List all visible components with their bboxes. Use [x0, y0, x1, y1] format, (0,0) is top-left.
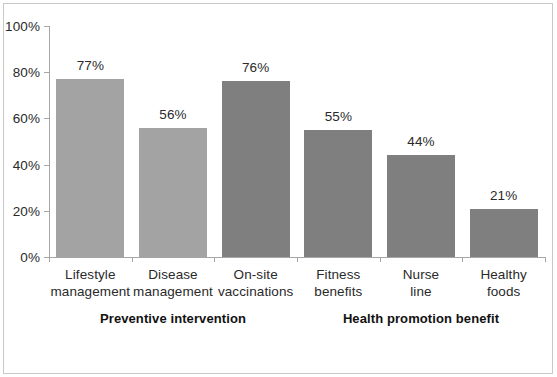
y-axis-line — [49, 26, 50, 258]
category-label-line: Fitness — [297, 266, 380, 283]
bar-rect[interactable] — [387, 155, 455, 257]
x-tick-mark — [49, 257, 50, 262]
x-tick-mark — [545, 257, 546, 262]
category-label: Diseasemanagement — [132, 266, 215, 300]
category-label: Lifestylemanagement — [49, 266, 132, 300]
bar-value-label: 21% — [490, 188, 517, 203]
bar-value-label: 44% — [407, 134, 434, 149]
category-label: Fitnessbenefits — [297, 266, 380, 300]
y-tick-mark — [44, 72, 49, 73]
category-label-line: Lifestyle — [49, 266, 132, 283]
y-tick-mark — [44, 211, 49, 212]
group-label: Preventive intervention — [49, 311, 297, 326]
y-tick-label: 100% — [5, 19, 40, 34]
category-label-line: On-site — [214, 266, 297, 283]
category-label-line: management — [49, 283, 132, 300]
category-label-line: management — [132, 283, 215, 300]
bar-value-label: 77% — [77, 58, 104, 73]
x-tick-mark — [132, 257, 133, 262]
x-tick-mark — [380, 257, 381, 262]
category-label-line: Nurse — [380, 266, 463, 283]
bar-rect[interactable] — [470, 209, 538, 258]
bar-value-label: 76% — [242, 60, 269, 75]
bar[interactable]: 55% — [304, 26, 372, 257]
group-label: Health promotion benefit — [297, 311, 545, 326]
category-label: On-sitevaccinations — [214, 266, 297, 300]
bar-value-label: 55% — [325, 109, 352, 124]
bar-rect[interactable] — [139, 128, 207, 257]
bar[interactable]: 21% — [470, 26, 538, 257]
category-label-line: benefits — [297, 283, 380, 300]
y-tick-mark — [44, 26, 49, 27]
category-label-line: Healthy — [462, 266, 545, 283]
category-label-line: foods — [462, 283, 545, 300]
category-label: Nurseline — [380, 266, 463, 300]
y-tick-label: 40% — [13, 157, 40, 172]
bar[interactable]: 44% — [387, 26, 455, 257]
bar[interactable]: 56% — [139, 26, 207, 257]
bar[interactable]: 76% — [222, 26, 290, 257]
y-tick-label: 0% — [20, 250, 40, 265]
x-tick-mark — [462, 257, 463, 262]
x-tick-mark — [297, 257, 298, 262]
bar-value-label: 56% — [159, 107, 186, 122]
category-label: Healthyfoods — [462, 266, 545, 300]
plot-area: 0%20%40%60%80%100% 77%56%76%55%44%21% — [49, 26, 545, 257]
bar-rect[interactable] — [304, 130, 372, 257]
x-tick-mark — [214, 257, 215, 262]
y-tick-mark — [44, 118, 49, 119]
y-tick-label: 60% — [13, 111, 40, 126]
y-tick-label: 20% — [13, 203, 40, 218]
bar-rect[interactable] — [222, 81, 290, 257]
y-tick-label: 80% — [13, 65, 40, 80]
bar[interactable]: 77% — [56, 26, 124, 257]
chart-frame: 0%20%40%60%80%100% 77%56%76%55%44%21% Li… — [3, 3, 553, 374]
category-label-line: line — [380, 283, 463, 300]
category-label-line: Disease — [132, 266, 215, 283]
y-tick-mark — [44, 165, 49, 166]
category-label-line: vaccinations — [214, 283, 297, 300]
bar-rect[interactable] — [56, 79, 124, 257]
